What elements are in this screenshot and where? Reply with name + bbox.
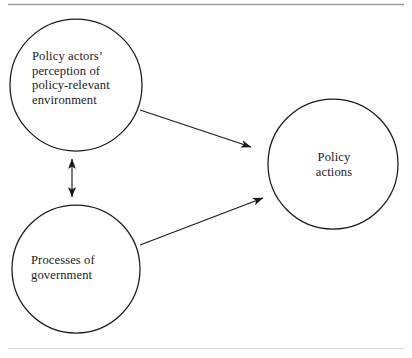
figure-container: Policy actors’ perception of policy-rele…	[0, 0, 412, 358]
arrow-perception-to-actions	[140, 110, 251, 147]
diagram-canvas	[0, 0, 412, 358]
node-circle-processes	[12, 205, 140, 333]
node-circle-actions	[268, 99, 398, 229]
arrow-processes-to-actions	[140, 198, 263, 245]
node-circle-perception	[10, 19, 142, 151]
